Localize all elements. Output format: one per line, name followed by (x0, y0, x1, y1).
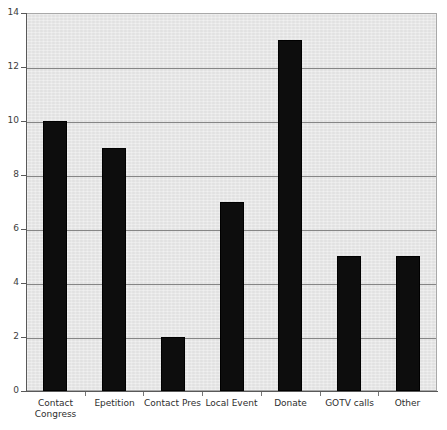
bar-contact-congress[interactable] (43, 121, 67, 391)
x-tick-mark-2 (143, 392, 144, 396)
gridline-8 (27, 176, 436, 177)
x-axis-label-contact-pres: Contact Pres (143, 398, 202, 409)
x-axis-label-gotv-calls: GOTV calls (320, 398, 379, 409)
bar-epetition[interactable] (102, 148, 126, 391)
y-tick-mark-6 (21, 229, 26, 230)
y-tick-mark-12 (21, 67, 26, 68)
y-tick-label-4: 4 (0, 278, 19, 287)
y-tick-mark-4 (21, 283, 26, 284)
y-axis-line (26, 13, 27, 392)
x-tick-mark-5 (320, 392, 321, 396)
y-tick-label-12: 12 (0, 62, 19, 71)
bar-contact-pres[interactable] (161, 337, 185, 391)
x-axis-label-contact-congress: ContactCongress (26, 398, 85, 420)
bar-donate[interactable] (278, 40, 302, 391)
y-tick-label-2: 2 (0, 332, 19, 341)
x-tick-mark-4 (261, 392, 262, 396)
y-tick-mark-10 (21, 121, 26, 122)
y-tick-label-14: 14 (0, 8, 19, 17)
x-axis-label-epetition: Epetition (85, 398, 144, 409)
x-axis-label-donate: Donate (261, 398, 320, 409)
y-tick-label-8: 8 (0, 170, 19, 179)
y-tick-label-10: 10 (0, 116, 19, 125)
bar-gotv-calls[interactable] (337, 256, 361, 391)
bar-local-event[interactable] (220, 202, 244, 391)
y-tick-label-6: 6 (0, 224, 19, 233)
x-axis-label-other: Other (378, 398, 437, 409)
gridline-12 (27, 68, 436, 69)
gridline-10 (27, 122, 436, 123)
y-tick-mark-2 (21, 337, 26, 338)
y-tick-mark-14 (21, 13, 26, 14)
x-tick-mark-1 (85, 392, 86, 396)
y-tick-label-0: 0 (0, 386, 19, 395)
y-tick-mark-0 (21, 391, 26, 392)
x-axis-label-local-event: Local Event (202, 398, 261, 409)
bar-other[interactable] (396, 256, 420, 391)
chart-title (0, 0, 447, 2)
x-axis-line (26, 391, 438, 392)
y-tick-mark-8 (21, 175, 26, 176)
x-tick-mark-3 (202, 392, 203, 396)
x-tick-mark-6 (378, 392, 379, 396)
